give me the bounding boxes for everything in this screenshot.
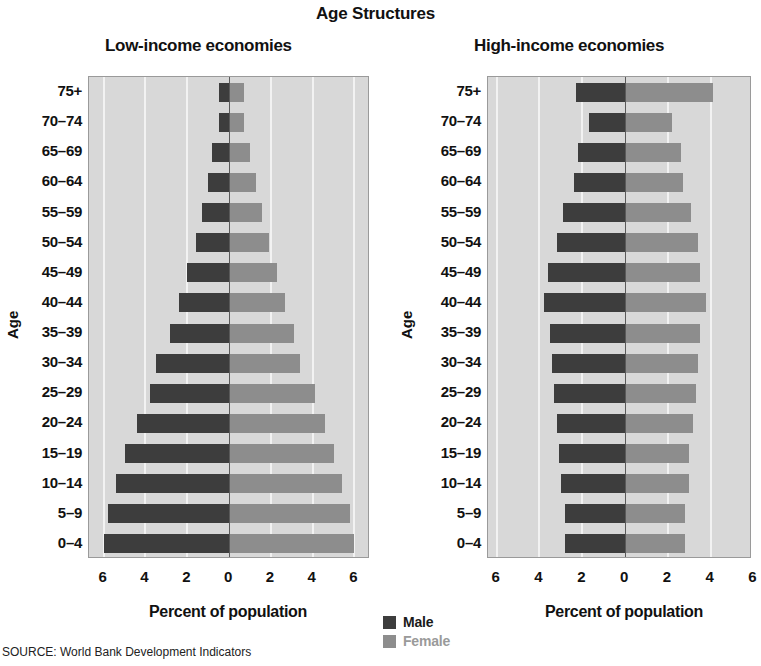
bar-male [554, 384, 625, 403]
legend-item-female: Female [383, 633, 450, 649]
bar-male [576, 83, 625, 102]
bar-female [625, 354, 698, 373]
bar-female [625, 414, 693, 433]
bar-male [578, 143, 625, 162]
x-axis-tick-label: 4 [699, 568, 721, 585]
bar-row [488, 143, 750, 162]
y-axis-tick-label: 60–64 [391, 172, 481, 189]
bar-male [559, 444, 625, 463]
bar-row [488, 474, 750, 493]
x-axis-tick-label: 2 [570, 568, 592, 585]
x-axis-tick-label: 6 [485, 568, 507, 585]
legend-label-female: Female [403, 633, 450, 649]
y-axis-tick-label: 30–34 [391, 353, 481, 370]
bar-male [589, 113, 625, 132]
bar-row [488, 444, 750, 463]
bar-female [625, 534, 685, 553]
y-axis-tick-label: 25–29 [391, 383, 481, 400]
page-title: Age Structures [0, 4, 751, 24]
source-note: SOURCE: World Bank Development Indicator… [2, 645, 251, 659]
y-axis-tick-label: 55–59 [391, 203, 481, 220]
bar-row [488, 504, 750, 523]
bar-row [488, 203, 750, 222]
bar-female [625, 233, 698, 252]
bar-male [552, 354, 625, 373]
bar-female [625, 203, 691, 222]
x-axis-tick-label: 6 [741, 568, 761, 585]
bar-row [488, 233, 750, 252]
bar-female [625, 384, 696, 403]
bar-row [488, 414, 750, 433]
y-axis-tick-label: 15–19 [391, 444, 481, 461]
bar-female [625, 173, 683, 192]
bar-female [625, 83, 713, 102]
zero-axis-line [625, 77, 626, 557]
bar-row [488, 263, 750, 282]
y-axis-tick-label: 5–9 [391, 504, 481, 521]
bar-row [488, 173, 750, 192]
y-axis-tick-label: 70–74 [391, 112, 481, 129]
y-axis-tick-label: 65–69 [391, 142, 481, 159]
bar-male [557, 414, 625, 433]
y-axis-tick-label: 40–44 [391, 293, 481, 310]
bar-male [561, 474, 625, 493]
bar-male [548, 263, 625, 282]
y-axis-tick-label: 10–14 [391, 474, 481, 491]
x-axis-tick-label: 0 [613, 568, 635, 585]
panel-title: High-income economies [474, 36, 664, 56]
y-axis-tick-label: 0–4 [391, 534, 481, 551]
bar-row [488, 354, 750, 373]
bar-male [544, 293, 625, 312]
bar-female [625, 113, 672, 132]
y-axis-tick-label: 50–54 [391, 233, 481, 250]
bar-female [625, 143, 681, 162]
chart-legend: Male Female [383, 614, 450, 652]
bar-male [563, 203, 625, 222]
bar-male [565, 504, 625, 523]
bar-row [488, 83, 750, 102]
bar-female [625, 474, 689, 493]
bar-male [574, 173, 625, 192]
bar-row [488, 534, 750, 553]
bar-female [625, 293, 706, 312]
bar-row [488, 113, 750, 132]
x-axis-tick-label: 2 [656, 568, 678, 585]
x-axis-title: Percent of population [514, 603, 734, 621]
bar-female [625, 263, 700, 282]
y-axis-title: Age [398, 311, 415, 339]
y-axis-tick-label: 75+ [391, 82, 481, 99]
y-axis-tick-label: 45–49 [391, 263, 481, 280]
bar-row [488, 324, 750, 343]
bar-row [488, 293, 750, 312]
y-axis-tick-label: 20–24 [391, 413, 481, 430]
legend-swatch-female-icon [383, 635, 396, 648]
chart-panel-high-income: High-income economies75+70–7465–6960–645… [0, 36, 751, 666]
bar-female [625, 324, 700, 343]
legend-item-male: Male [383, 614, 450, 630]
bar-female [625, 444, 689, 463]
bar-male [557, 233, 625, 252]
x-axis-tick-label: 4 [527, 568, 549, 585]
bar-male [550, 324, 625, 343]
plot-area [487, 76, 751, 558]
legend-label-male: Male [403, 614, 433, 630]
bar-male [565, 534, 625, 553]
zero-axis-line [229, 77, 230, 557]
bar-female [625, 504, 685, 523]
legend-swatch-male-icon [383, 616, 396, 629]
bar-row [488, 384, 750, 403]
